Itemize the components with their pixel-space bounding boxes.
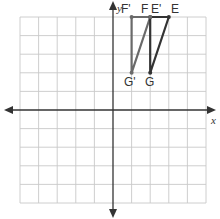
label-e-prime: E' — [151, 2, 161, 16]
x-axis-label: x — [210, 114, 216, 126]
label-f-prime: F' — [121, 2, 131, 16]
x-axis-right-arrow-icon — [207, 106, 216, 114]
coordinate-plane: x y F' F E' E G' G — [0, 0, 220, 219]
original-triangle-shape — [150, 17, 169, 73]
axes: x y — [4, 1, 216, 218]
y-axis-down-arrow-icon — [109, 209, 117, 218]
label-e: E — [171, 2, 179, 16]
triangle-e-prime-f-prime-g-prime — [132, 17, 151, 73]
label-g-prime: G' — [124, 75, 136, 89]
triangle-efg — [150, 17, 169, 73]
label-g: G — [145, 75, 154, 89]
y-axis-up-arrow-icon — [109, 1, 117, 10]
label-f: F — [141, 2, 148, 16]
x-axis-left-arrow-icon — [4, 106, 13, 114]
image-triangle-shape — [132, 17, 151, 73]
